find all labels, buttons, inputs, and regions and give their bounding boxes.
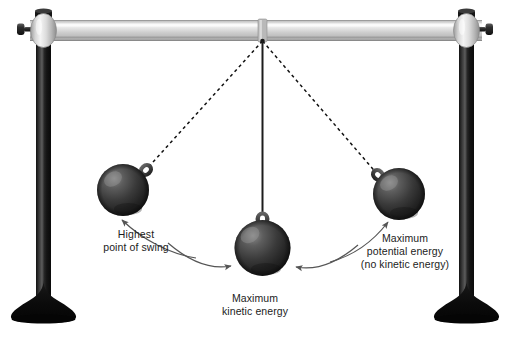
horizontal-support-bar [30, 20, 482, 41]
left-stand-base [11, 280, 76, 324]
right-stand-base [434, 280, 499, 324]
label-potential-line1: Maximum [336, 232, 474, 245]
label-maximum-potential-energy: Maximum potential energy (no kinetic ene… [336, 232, 474, 271]
label-potential-line3: (no kinetic energy) [336, 258, 474, 271]
pendulum-string-dashed-left [149, 41, 263, 167]
label-kinetic-line1: Maximum [195, 292, 315, 305]
pendulum-diagram [0, 0, 510, 338]
left-clamp[interactable] [17, 14, 57, 48]
label-highest-line2: point of swing [77, 241, 195, 254]
pendulum-string-dashed-right [263, 41, 376, 172]
pendulum-pivot-point [258, 19, 267, 43]
left-vertical-pole [36, 30, 51, 308]
label-maximum-kinetic-energy: Maximum kinetic energy [195, 292, 315, 318]
pendulum-bob-right-extreme [368, 165, 425, 220]
label-kinetic-line2: kinetic energy [195, 305, 315, 318]
right-clamp[interactable] [454, 14, 494, 48]
label-potential-line2: potential energy [336, 245, 474, 258]
pendulum-bob-lowest-point [235, 212, 291, 277]
label-highest-point-of-swing: Highest point of swing [77, 228, 195, 254]
label-highest-line1: Highest [77, 228, 195, 241]
pendulum-bob-left-extreme [97, 160, 156, 216]
